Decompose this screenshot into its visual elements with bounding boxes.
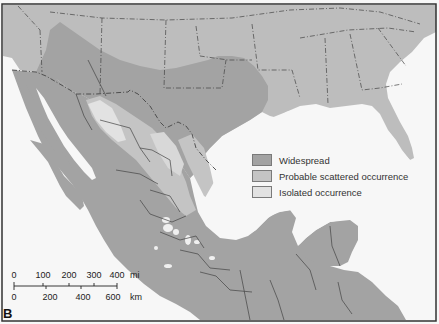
mi-tick-0: 0	[11, 270, 16, 280]
scale-bar-graphic: 0 100 200 300 400 mi 0 200 400 600 km	[6, 270, 146, 306]
panel-label: B	[3, 306, 12, 321]
legend-swatch-isolated	[252, 186, 272, 198]
legend-label: Probable scattered occurrence	[279, 171, 408, 182]
mi-tick-400: 400	[109, 270, 124, 280]
legend-swatch-probable	[252, 170, 272, 182]
mi-tick-200: 200	[61, 270, 76, 280]
legend-item-isolated: Isolated occurrence	[252, 184, 408, 200]
legend-item-probable: Probable scattered occurrence	[252, 168, 408, 184]
mi-tick-100: 100	[35, 270, 50, 280]
km-unit: km	[130, 292, 142, 302]
km-tick-0: 0	[11, 292, 16, 302]
mi-unit: mi	[130, 270, 140, 280]
legend-item-widespread: Widespread	[252, 152, 408, 168]
legend-swatch-widespread	[252, 154, 272, 166]
km-tick-400: 400	[75, 292, 90, 302]
scale-bar: 0 100 200 300 400 mi 0 200 400 600 km	[6, 270, 146, 308]
km-tick-200: 200	[42, 292, 57, 302]
legend: Widespread Probable scattered occurrence…	[252, 152, 408, 200]
mi-tick-300: 300	[86, 270, 101, 280]
legend-label: Isolated occurrence	[279, 187, 362, 198]
km-tick-600: 600	[105, 292, 120, 302]
legend-label: Widespread	[279, 155, 330, 166]
